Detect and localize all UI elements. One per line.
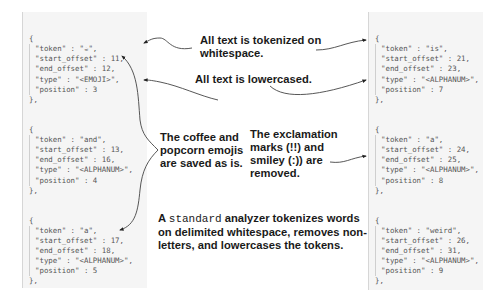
close-brace: }, xyxy=(29,276,147,286)
start-offset-field: "start_offset" : 17, xyxy=(35,236,147,246)
end-offset-field: "end_offset" : 16, xyxy=(35,155,147,165)
token-field: "token" : "a", xyxy=(381,135,483,145)
close-brace: }, xyxy=(375,95,483,105)
token-block-7: {"token" : "is","start_offset" : 21,"end… xyxy=(375,34,483,105)
position-field: "position" : 8 xyxy=(381,176,483,186)
token-block-3: {"token" : "☕","start_offset" : 11,"end_… xyxy=(29,34,147,105)
start-offset-field: "start_offset" : 26, xyxy=(381,236,483,246)
left-token-list: {"token" : "☕","start_offset" : 11,"end_… xyxy=(22,12,147,288)
token-block-5: {"token" : "a","start_offset" : 17,"end_… xyxy=(29,216,147,287)
start-offset-field: "start_offset" : 13, xyxy=(35,145,147,155)
type-field: "type" : "<EMOJI>", xyxy=(35,75,147,85)
position-field: "position" : 7 xyxy=(381,85,483,95)
token-field: "token" : "and", xyxy=(35,135,147,145)
arrow-whitespace-left xyxy=(144,38,192,49)
type-field: "type" : "<ALPHANUM>", xyxy=(381,75,483,85)
analyzer-name: standard xyxy=(169,213,222,225)
end-offset-field: "end_offset" : 18, xyxy=(35,246,147,256)
start-offset-field: "start_offset" : 21, xyxy=(381,54,483,64)
start-offset-field: "start_offset" : 11, xyxy=(35,54,147,64)
token-field: "token" : "☕", xyxy=(35,44,147,54)
open-brace: { xyxy=(375,216,483,226)
token-block-4: {"token" : "and","start_offset" : 13,"en… xyxy=(29,125,147,196)
end-offset-field: "end_offset" : 12, xyxy=(35,64,147,74)
callout-standard-analyzer: A standard analyzer tokenizes words on d… xyxy=(158,212,368,252)
position-field: "position" : 3 xyxy=(35,85,147,95)
type-field: "type" : "<ALPHANUM>", xyxy=(35,256,147,266)
end-offset-field: "end_offset" : 25, xyxy=(381,155,483,165)
open-brace: { xyxy=(29,125,147,135)
callout-exclamation: The exclamation marks (!!) and smiley (:… xyxy=(250,128,340,180)
open-brace: { xyxy=(375,34,483,44)
close-brace: }, xyxy=(29,95,147,105)
open-brace: { xyxy=(29,216,147,226)
close-brace: }, xyxy=(375,186,483,196)
callout-prefix: A xyxy=(158,212,166,224)
callout-whitespace: All text is tokenized on whitespace. xyxy=(200,34,350,60)
end-offset-field: "end_offset" : 23, xyxy=(381,64,483,74)
type-field: "type" : "<ALPHANUM>", xyxy=(381,165,483,175)
close-brace: }, xyxy=(29,186,147,196)
type-field: "type" : "<ALPHANUM>", xyxy=(381,256,483,266)
type-field: "type" : "<ALPHANUM>", xyxy=(35,165,147,175)
right-token-list: {"token" : "is","start_offset" : 21,"end… xyxy=(368,12,483,290)
callout-emojis: The coffee and popcorn emojis are saved … xyxy=(160,131,255,170)
token-field: "token" : "a", xyxy=(35,226,147,236)
token-field: "token" : "weird", xyxy=(381,226,483,236)
position-field: "position" : 4 xyxy=(35,176,147,186)
start-offset-field: "start_offset" : 24, xyxy=(381,145,483,155)
position-field: "position" : 5 xyxy=(35,266,147,276)
callout-lowercased: All text is lowercased. xyxy=(195,73,355,86)
close-brace: }, xyxy=(375,276,483,286)
end-offset-field: "end_offset" : 31, xyxy=(381,246,483,256)
position-field: "position" : 9 xyxy=(381,266,483,276)
open-brace: { xyxy=(29,34,147,44)
token-field: "token" : "is", xyxy=(381,44,483,54)
token-block-9: {"token" : "weird","start_offset" : 26,"… xyxy=(375,216,483,287)
open-brace: { xyxy=(375,125,483,135)
token-block-8: {"token" : "a","start_offset" : 24,"end_… xyxy=(375,125,483,196)
